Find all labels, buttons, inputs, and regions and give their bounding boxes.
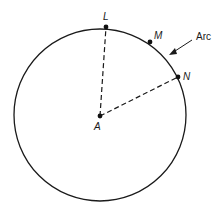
arc-label: Arc [196, 31, 211, 42]
point-N [176, 75, 181, 80]
radius-AN [100, 77, 178, 116]
point-L [104, 25, 109, 30]
point-A [98, 114, 103, 119]
point-M [148, 40, 153, 45]
label-N: N [183, 71, 191, 82]
circle-diagram: A L M N Arc [0, 0, 219, 216]
radius-AL [100, 27, 106, 116]
label-A: A [93, 121, 101, 132]
label-L: L [103, 11, 109, 22]
label-M: M [154, 30, 163, 41]
arrow-head-icon [169, 48, 177, 55]
